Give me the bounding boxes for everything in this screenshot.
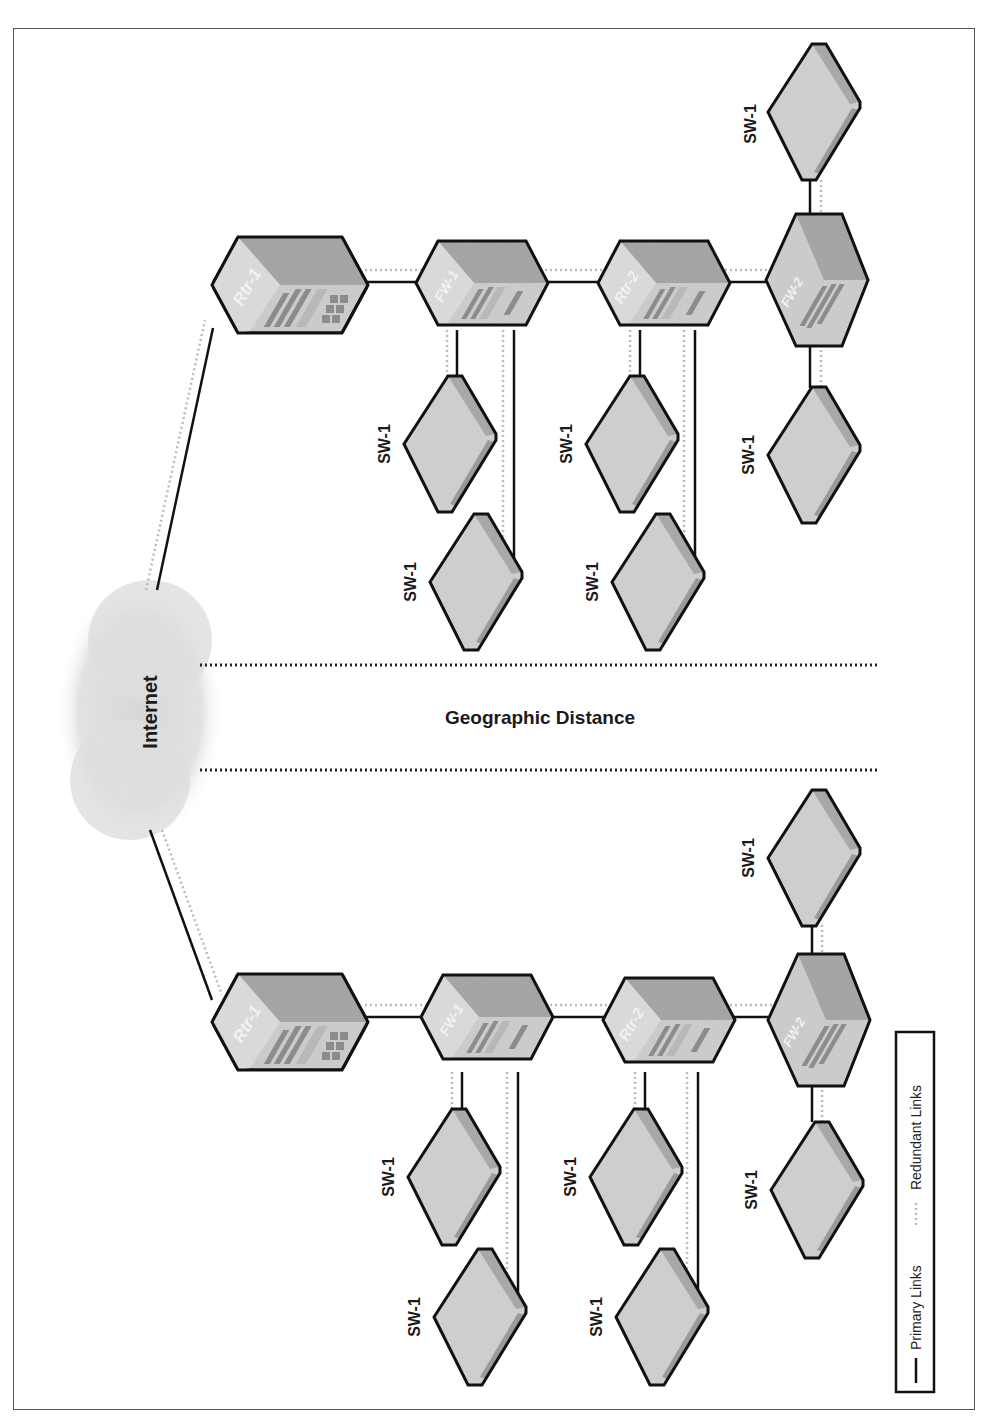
switch-upper-fw1-a[interactable]: SW-1 [376, 376, 496, 512]
svg-text:SW-1: SW-1 [584, 562, 601, 602]
lower-site: Rtr-1 FW-1 Rtr-2 FW-2 SW-1 SW-1 SW-1 S [212, 790, 870, 1385]
switch-upper-rtr2-a[interactable]: SW-1 [558, 376, 678, 512]
upper-site: Rtr-1 FW-1 Rtr-2 FW-2 SW-1 SW-1 SW-1 S [212, 44, 868, 650]
internet-label: Internet [139, 675, 161, 749]
svg-text:SW-1: SW-1 [380, 1157, 397, 1197]
legend-primary-label: Primary Links [908, 1265, 924, 1350]
svg-text:SW-1: SW-1 [740, 435, 757, 475]
firewall-fw2-lower[interactable]: FW-2 [768, 954, 870, 1086]
svg-text:SW-1: SW-1 [740, 838, 757, 878]
geographic-distance-separator: Geographic Distance [200, 665, 880, 770]
firewall-fw1-upper[interactable]: FW-1 [416, 241, 548, 325]
router-rtr1-lower[interactable]: Rtr-1 [212, 974, 368, 1070]
router-rtr1-upper[interactable]: Rtr-1 [212, 237, 368, 333]
switch-upper-rtr2-b[interactable]: SW-1 [584, 514, 704, 650]
switch-lower-rtr2-a[interactable]: SW-1 [562, 1109, 682, 1245]
geographic-distance-label: Geographic Distance [445, 707, 635, 728]
svg-text:SW-1: SW-1 [743, 1170, 760, 1210]
switch-upper-fw2-bottom[interactable]: SW-1 [740, 387, 860, 523]
svg-text:SW-1: SW-1 [406, 1297, 423, 1337]
switch-lower-rtr2-b[interactable]: SW-1 [588, 1249, 708, 1385]
firewall-fw2-upper[interactable]: FW-2 [766, 214, 868, 346]
internet-cloud: Internet [58, 580, 222, 842]
switch-lower-top[interactable]: SW-1 [740, 790, 860, 926]
router-rtr2-lower[interactable]: Rtr-2 [603, 978, 735, 1062]
network-diagram: Internet Geographic Distance [0, 0, 987, 1424]
svg-text:SW-1: SW-1 [402, 562, 419, 602]
svg-text:SW-1: SW-1 [588, 1297, 605, 1337]
switch-lower-fw1-b[interactable]: SW-1 [406, 1249, 526, 1385]
firewall-fw1-lower[interactable]: FW-1 [421, 975, 553, 1059]
router-rtr2-upper[interactable]: Rtr-2 [598, 241, 730, 325]
svg-text:SW-1: SW-1 [742, 104, 759, 144]
switch-upper-fw1-b[interactable]: SW-1 [402, 514, 522, 650]
svg-text:SW-1: SW-1 [558, 424, 575, 464]
switch-upper-top[interactable]: SW-1 [742, 44, 860, 180]
svg-text:SW-1: SW-1 [562, 1157, 579, 1197]
svg-text:SW-1: SW-1 [376, 424, 393, 464]
legend: Primary Links Redundant Links [896, 1032, 934, 1392]
switch-lower-fw1-a[interactable]: SW-1 [380, 1109, 500, 1245]
switch-lower-fw2-bottom[interactable]: SW-1 [743, 1122, 863, 1258]
legend-redundant-label: Redundant Links [908, 1085, 924, 1190]
